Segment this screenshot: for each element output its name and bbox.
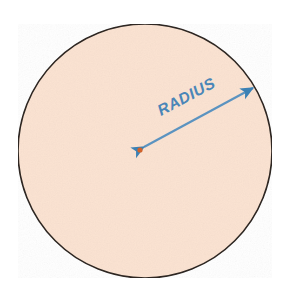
- circle-shape: [18, 24, 272, 278]
- center-point-dot: [137, 147, 142, 152]
- diagram-canvas: RADIUS: [0, 0, 293, 299]
- circle-radius-diagram: RADIUS: [0, 0, 293, 299]
